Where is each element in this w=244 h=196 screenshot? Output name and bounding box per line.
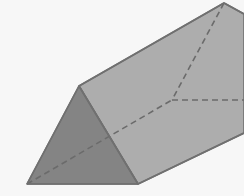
triangular-prism-figure: Triangular prism solid figure [0, 0, 244, 196]
figure-stage: Triangular prism solid figure [0, 0, 244, 196]
